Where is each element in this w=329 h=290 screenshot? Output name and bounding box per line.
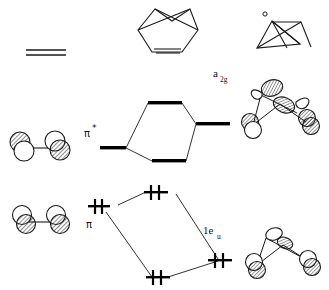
- label-a2g-main: a: [213, 67, 218, 79]
- level-a2g-center-upper: [148, 101, 182, 104]
- diagram-canvas: π * π a 2g 1e u: [0, 0, 329, 290]
- level-a2g-right: [196, 122, 230, 125]
- label-1eu-subscript: u: [217, 232, 221, 241]
- level-a2g-center-lower: [152, 159, 186, 162]
- label-pi-star-superscript: *: [92, 123, 97, 133]
- label-pi-star: π: [84, 128, 90, 139]
- level-pi-star-left: [100, 146, 126, 149]
- label-a2g-subscript: 2g: [220, 75, 228, 84]
- label-pi: π: [86, 219, 92, 230]
- mo-correlation-diagram: π * π a 2g 1e u: [0, 0, 329, 290]
- label-1eu-main: 1e: [203, 224, 214, 236]
